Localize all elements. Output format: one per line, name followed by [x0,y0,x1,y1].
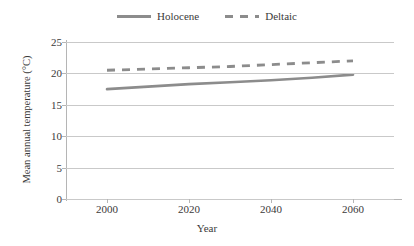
x-tick-mark-2020 [189,199,190,203]
gridline-y-20 [66,73,394,74]
legend-item-deltaic: Deltaic [225,10,297,22]
x-tick-mark-2040 [271,199,272,203]
x-tick-label-2060: 2060 [323,203,383,215]
y-axis-title-text: Mean annual temperature (°C) [21,55,32,183]
chart-figure: Holocene Deltaic Mean annual temperature… [0,0,414,246]
legend-swatch-solid-line-icon [117,15,151,18]
x-tick-mark-2000 [107,199,108,203]
y-tick-mark-0 [62,199,66,200]
y-tick-mark-5 [62,168,66,169]
x-tick-label-2040: 2040 [241,203,301,215]
legend-label-holocene: Holocene [157,10,199,22]
x-axis-title-text: Year [197,222,217,234]
y-tick-label-20: 20 [38,67,62,79]
y-tick-mark-25 [62,42,66,43]
y-tick-label-15: 15 [38,99,62,111]
series-layer [66,42,394,199]
gridline-y-10 [66,136,394,137]
chart-legend: Holocene Deltaic [0,10,414,22]
legend-item-holocene: Holocene [117,10,199,22]
gridline-y-0 [66,199,394,200]
series-line-deltaic [107,61,353,70]
x-axis-title: Year [0,222,414,234]
series-line-holocene [107,75,353,89]
gridline-y-25 [66,42,394,43]
y-tick-mark-20 [62,73,66,74]
y-tick-label-0: 0 [38,193,62,205]
gridline-y-15 [66,105,394,106]
y-tick-mark-10 [62,136,66,137]
plot-area [66,42,394,199]
y-axis-tick-labels: 0510152025 [36,0,62,246]
y-tick-label-10: 10 [38,130,62,142]
x-tick-label-2020: 2020 [159,203,219,215]
legend-swatch-dashed-line-icon [225,15,259,18]
y-tick-label-25: 25 [38,36,62,48]
legend-label-deltaic: Deltaic [265,10,297,22]
y-tick-label-5: 5 [38,162,62,174]
y-tick-mark-15 [62,105,66,106]
gridline-y-5 [66,168,394,169]
x-tick-mark-2060 [353,199,354,203]
x-tick-label-2000: 2000 [77,203,137,215]
y-axis-title: Mean annual temperature (°C) [18,38,34,200]
